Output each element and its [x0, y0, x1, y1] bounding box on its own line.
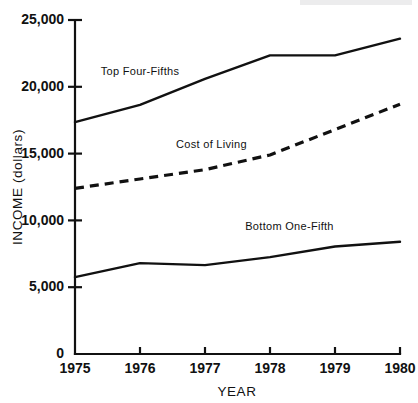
chart-background	[0, 0, 418, 403]
x-tick-label-1978: 1978	[254, 360, 285, 376]
y-tick-label-0: 0	[56, 345, 64, 361]
scan-artifact	[300, 0, 412, 5]
x-axis-title: YEAR	[217, 384, 256, 399]
income-line-chart: 05,00010,00015,00020,00025,000 INCOME (d…	[0, 0, 418, 403]
x-tick-label-1976: 1976	[124, 360, 155, 376]
y-tick-label-25000: 25,000	[21, 11, 64, 27]
series-label-top-four-fifths: Top Four-Fifths	[101, 65, 180, 77]
x-tick-label-1980: 1980	[384, 360, 415, 376]
y-axis-title: INCOME (dollars)	[10, 129, 25, 245]
x-tick-label-1975: 1975	[59, 360, 90, 376]
series-label-bottom-one-fifth: Bottom One-Fifth	[245, 220, 334, 232]
y-tick-label-10000: 10,000	[21, 212, 64, 228]
chart-canvas: 05,00010,00015,00020,00025,000 INCOME (d…	[0, 0, 418, 403]
x-tick-label-1979: 1979	[319, 360, 350, 376]
y-tick-label-20000: 20,000	[21, 78, 64, 94]
series-label-cost-of-living: Cost of Living	[176, 138, 247, 150]
y-tick-label-5000: 5,000	[29, 278, 64, 294]
x-tick-label-1977: 1977	[189, 360, 220, 376]
y-tick-label-15000: 15,000	[21, 145, 64, 161]
